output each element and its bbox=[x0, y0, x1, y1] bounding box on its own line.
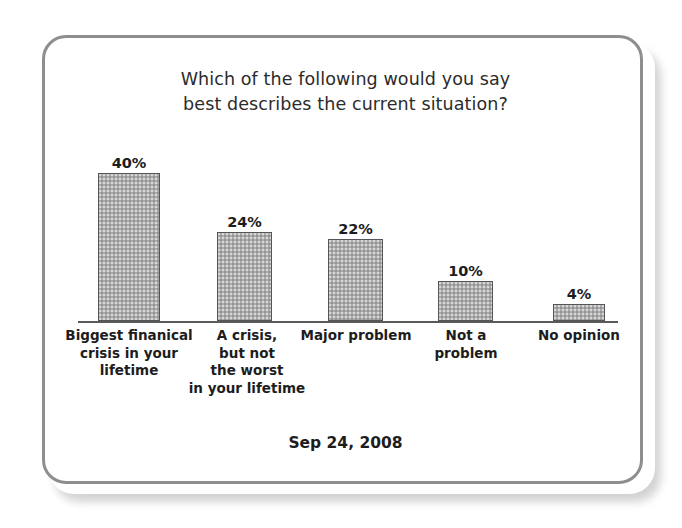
category-label-line: in your lifetime bbox=[183, 380, 311, 398]
bar-rect[interactable] bbox=[98, 173, 160, 321]
x-axis-line bbox=[78, 321, 618, 323]
category-label-no-opinion[interactable]: No opinion bbox=[521, 327, 637, 345]
bar-rect[interactable] bbox=[438, 281, 493, 321]
category-label-line: problem bbox=[423, 345, 509, 363]
bar-rect[interactable] bbox=[217, 232, 272, 321]
category-label-line: crisis in your bbox=[59, 345, 199, 363]
category-labels: Biggest finanical crisis in your lifetim… bbox=[45, 327, 646, 427]
category-label-line: Biggest finanical bbox=[59, 327, 199, 345]
plot-area: 40% 24% 22% 10% 4% Biggest finanical bbox=[45, 38, 646, 487]
category-label-not-a-problem[interactable]: Not a problem bbox=[423, 327, 509, 362]
category-label-line: lifetime bbox=[59, 362, 199, 380]
bar-rect[interactable] bbox=[553, 304, 605, 321]
category-label-line: A crisis, bbox=[197, 327, 297, 345]
figure-frame: Which of the following would you say bes… bbox=[42, 35, 643, 484]
bar-value-label: 24% bbox=[217, 214, 272, 230]
category-label-line: the worst bbox=[197, 362, 297, 380]
bar-value-label: 4% bbox=[553, 286, 605, 302]
category-label-line: Major problem bbox=[295, 327, 417, 345]
category-label-line: but not bbox=[197, 345, 297, 363]
bar-rect[interactable] bbox=[328, 239, 383, 321]
category-label-biggest-finanical-crisis[interactable]: Biggest finanical crisis in your lifetim… bbox=[59, 327, 199, 380]
bar-value-label: 22% bbox=[328, 221, 383, 237]
category-label-major-problem[interactable]: Major problem bbox=[295, 327, 417, 345]
bar-value-label: 40% bbox=[98, 155, 160, 171]
category-label-line: Not a bbox=[423, 327, 509, 345]
date-caption: Sep 24, 2008 bbox=[45, 434, 646, 452]
category-label-a-crisis-but-not-the-worst[interactable]: A crisis, but not the worst in your life… bbox=[197, 327, 297, 380]
category-label-line: No opinion bbox=[521, 327, 637, 345]
bar-value-label: 10% bbox=[438, 263, 493, 279]
